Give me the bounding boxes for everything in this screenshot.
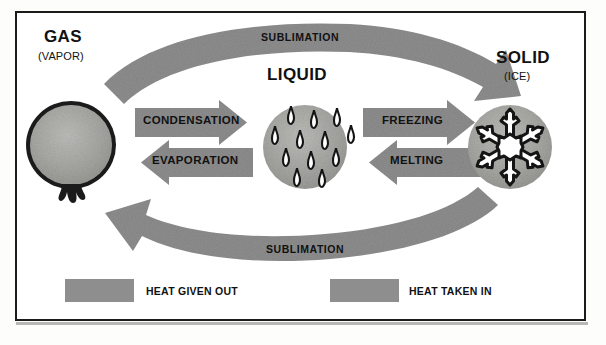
legend-swatch-heat-taken-in (330, 279, 399, 302)
state-sublabel-gas: (VAPOR) (38, 51, 84, 62)
state-sublabel-solid: (ICE) (504, 71, 530, 82)
legend-label-heat-given-out: HEAT GIVEN OUT (146, 286, 238, 297)
water-droplets-icon (263, 105, 354, 189)
state-label-liquid: LIQUID (267, 66, 327, 83)
arrow-label-condensation: CONDENSATION (143, 115, 240, 127)
legend-label-heat-taken-in: HEAT TAKEN IN (409, 286, 492, 297)
arrow-label-sublimation-bottom: SUBLIMATION (266, 244, 344, 255)
arrow-label-freezing: FREEZING (382, 115, 443, 127)
state-label-solid: SOLID (496, 49, 550, 66)
snowflake-icon (468, 105, 552, 189)
balloon-icon (26, 101, 116, 203)
arrow-label-sublimation-top: SUBLIMATION (261, 32, 339, 43)
state-change-diagram: GAS (VAPOR) LIQUID SOLID (ICE) CONDENSAT… (0, 0, 606, 345)
arrow-label-melting: MELTING (390, 155, 443, 167)
state-label-gas: GAS (44, 28, 82, 45)
arrow-label-evaporation: EVAPORATION (152, 155, 238, 167)
legend-swatch-heat-given-out (65, 279, 134, 302)
